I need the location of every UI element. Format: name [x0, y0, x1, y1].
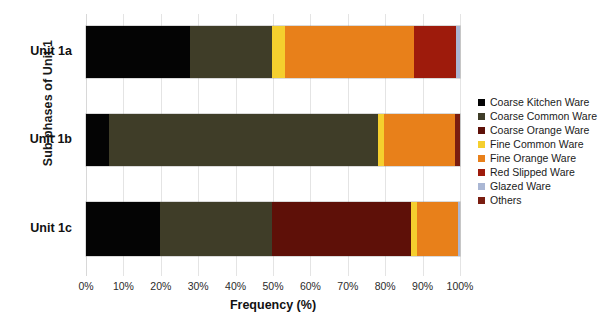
stacked-bar-chart: Sub-phases of Unit 1 Unit 1a Unit 1b Uni… — [0, 0, 610, 324]
bar-segment — [384, 114, 455, 166]
legend-label: Coarse Common Ware — [490, 111, 597, 122]
y-tick-label-unit-1a: Unit 1a — [0, 44, 72, 58]
x-tick-label: 80% — [375, 280, 396, 292]
legend-swatch-icon — [478, 113, 485, 120]
bar-unit-1a — [86, 26, 460, 78]
x-tick-label: 60% — [300, 280, 321, 292]
bar-segment — [414, 26, 456, 78]
legend-label: Fine Orange Ware — [490, 153, 576, 164]
legend-swatch-icon — [478, 155, 485, 162]
legend-swatch-icon — [478, 197, 485, 204]
legend-item: Coarse Common Ware — [478, 110, 597, 123]
legend-item: Fine Orange Ware — [478, 152, 597, 165]
bar-segment — [86, 114, 109, 166]
x-tick-label: 70% — [337, 280, 358, 292]
legend-label: Others — [490, 195, 522, 206]
x-tick-label: 20% — [150, 280, 171, 292]
bar-segment — [272, 26, 285, 78]
bar-segment — [458, 202, 460, 256]
x-tick-label: 50% — [262, 280, 283, 292]
x-tick-label: 0% — [78, 280, 93, 292]
legend-item: Coarse Orange Ware — [478, 124, 597, 137]
bar-unit-1b — [86, 114, 460, 166]
legend-item: Coarse Kitchen Ware — [478, 96, 597, 109]
legend-label: Fine Common Ware — [490, 139, 584, 150]
legend-label: Coarse Kitchen Ware — [490, 97, 589, 108]
bar-segment — [86, 202, 160, 256]
legend-swatch-icon — [478, 169, 485, 176]
bar-segment — [86, 26, 190, 78]
legend-item: Glazed Ware — [478, 180, 597, 193]
legend-label: Glazed Ware — [490, 181, 551, 192]
legend-label: Coarse Orange Ware — [490, 125, 589, 136]
x-tick-label: 30% — [188, 280, 209, 292]
bar-segment — [455, 114, 460, 166]
legend-item: Others — [478, 194, 597, 207]
x-tick-label: 40% — [225, 280, 246, 292]
legend-swatch-icon — [478, 99, 485, 106]
x-tick-label: 100% — [447, 280, 474, 292]
bar-unit-1c — [86, 202, 460, 256]
gridline-100 — [460, 14, 461, 276]
legend-label: Red Slipped Ware — [490, 167, 575, 178]
y-axis-tick-labels: Unit 1a Unit 1b Unit 1c — [0, 14, 86, 276]
x-tick-label: 10% — [113, 280, 134, 292]
bar-segment — [160, 202, 272, 256]
bar-segment — [417, 202, 458, 256]
legend-swatch-icon — [478, 127, 485, 134]
bar-segment — [109, 114, 378, 166]
bar-segment — [190, 26, 272, 78]
legend-swatch-icon — [478, 183, 485, 190]
bar-segment — [285, 26, 414, 78]
legend-item: Red Slipped Ware — [478, 166, 597, 179]
bar-segment — [272, 202, 411, 256]
x-axis-title: Frequency (%) — [86, 298, 460, 312]
x-axis-tick-labels: 0%10%20%30%40%50%60%70%80%90%100% — [86, 280, 460, 296]
y-tick-label-unit-1b: Unit 1b — [0, 132, 72, 146]
bar-segment — [456, 26, 460, 78]
legend: Coarse Kitchen WareCoarse Common WareCoa… — [478, 96, 597, 208]
y-tick-label-unit-1c: Unit 1c — [0, 221, 72, 235]
legend-item: Fine Common Ware — [478, 138, 597, 151]
plot-area — [86, 14, 460, 276]
legend-swatch-icon — [478, 141, 485, 148]
x-tick-label: 90% — [412, 280, 433, 292]
